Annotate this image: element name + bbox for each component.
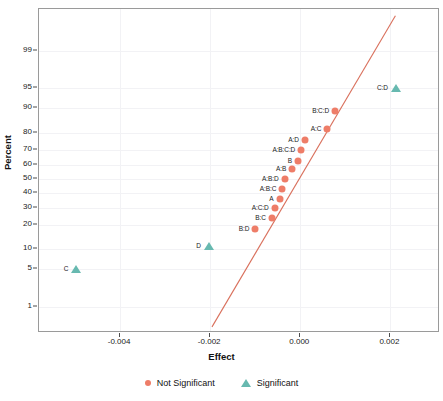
point-label-A-D: A:D [288,137,301,144]
point-label-A-B-C-D: A:B:C:D [272,147,297,154]
data-point-A[interactable] [276,195,283,202]
point-label-B: B [288,157,294,164]
y-tick-label-60: 60 [23,160,32,168]
point-label-A-C-D: A:C:D [252,204,271,211]
x-tick-label-3: 0.002 [379,338,399,346]
point-label-B-C: B:C [255,214,268,221]
y-tick-mark-99 [33,50,37,51]
x-axis-title: Effect [0,351,443,362]
data-point-B-D[interactable] [252,226,259,233]
reference-line [39,9,439,332]
normal-probability-plot: B:DB:CA:C:DAA:B:CA:B:DA:BBA:B:C:DA:DA:CB… [0,0,443,401]
legend-entry-not-significant[interactable]: Not Significant [145,378,215,388]
data-point-C[interactable] [71,265,81,273]
data-point-C-D[interactable] [391,84,401,92]
data-point-A-C-D[interactable] [271,204,278,211]
x-tick-mark-0 [119,333,120,337]
data-point-B-C[interactable] [268,214,275,221]
data-point-B-C-D[interactable] [332,108,339,115]
data-point-A-B-D[interactable] [281,175,288,182]
x-tick-mark-1 [209,333,210,337]
point-label-C-D: C:D [377,85,390,92]
x-tick-mark-3 [389,333,390,337]
data-point-D[interactable] [204,242,214,250]
y-tick-label-95: 95 [23,83,32,91]
y-tick-label-1: 1 [28,302,32,310]
y-tick-mark-60 [33,163,37,164]
data-point-A-D[interactable] [301,137,308,144]
y-axis-title: Percent [2,135,13,170]
x-tick-label-1: -0.002 [198,338,221,346]
data-point-A-B-C[interactable] [279,185,286,192]
point-label-A-B: A:B [276,166,288,173]
legend: Not SignificantSignificant [0,378,443,388]
reference-line-segment [212,16,395,327]
y-tick-label-99: 99 [23,46,32,54]
legend-label: Not Significant [157,378,215,388]
legend-label: Significant [257,378,299,388]
legend-triangle-icon [241,379,251,387]
y-tick-label-90: 90 [23,103,32,111]
y-tick-mark-50 [33,177,37,178]
y-tick-mark-20 [33,224,37,225]
y-tick-label-50: 50 [23,174,32,182]
data-point-A-C[interactable] [324,125,331,132]
y-tick-mark-80 [33,131,37,132]
y-tick-mark-70 [33,149,37,150]
data-point-A-B-C-D[interactable] [298,147,305,154]
y-tick-label-5: 5 [28,264,32,272]
y-tick-label-30: 30 [23,203,32,211]
y-tick-mark-1 [33,305,37,306]
y-tick-mark-10 [33,248,37,249]
point-label-A-B-C: A:B:C [260,185,278,192]
legend-circle-icon [145,380,151,386]
point-label-A-B-D: A:B:D [262,176,280,183]
data-point-A-B[interactable] [289,166,296,173]
x-tick-mark-2 [299,333,300,337]
y-tick-label-70: 70 [23,145,32,153]
legend-entry-significant[interactable]: Significant [241,378,299,388]
y-tick-mark-5 [33,268,37,269]
y-tick-mark-90 [33,107,37,108]
y-tick-mark-95 [33,87,37,88]
point-label-D: D [196,243,203,250]
y-tick-mark-30 [33,206,37,207]
point-label-B-D: B:D [239,226,252,233]
point-label-A: A [269,195,275,202]
y-tick-label-20: 20 [23,220,32,228]
point-label-A-C: A:C [311,125,324,132]
y-tick-label-10: 10 [23,244,32,252]
y-tick-label-40: 40 [23,188,32,196]
y-tick-mark-40 [33,191,37,192]
y-tick-label-80: 80 [23,128,32,136]
x-tick-label-2: 0.000 [289,338,309,346]
plot-panel: B:DB:CA:C:DAA:B:CA:B:DA:BBA:B:C:DA:DA:CB… [38,8,439,332]
point-label-C: C [64,266,71,273]
point-label-B-C-D: B:C:D [312,108,331,115]
data-point-B[interactable] [295,157,302,164]
x-tick-label-0: -0.004 [108,338,131,346]
